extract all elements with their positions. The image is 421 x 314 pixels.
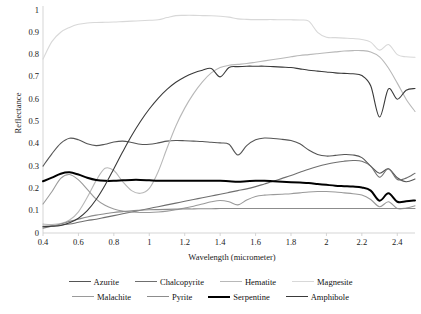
legend-swatch-icon: [220, 281, 242, 282]
legend-swatch-icon: [292, 281, 314, 282]
legend-item-label: Azurite: [94, 277, 120, 287]
legend-item-amphibole[interactable]: Amphibole: [286, 292, 349, 302]
legend-item-label: Serpentine: [233, 292, 269, 302]
reflectance-spectra-chart: Reflectance 00.10.20.30.40.50.60.70.80.9…: [0, 0, 421, 314]
series-line-magnesite: [43, 15, 415, 59]
legend-swatch-icon: [147, 296, 169, 297]
legend-swatch-icon: [72, 296, 94, 297]
x-axis-title: Wavelength (micrometer): [43, 252, 421, 262]
legend-item-magnesite[interactable]: Magnesite: [292, 277, 352, 287]
legend-item-serpentine[interactable]: Serpentine: [208, 292, 269, 302]
legend-row-1: AzuriteChalcopyriteHematiteMagnesite: [0, 274, 421, 289]
legend-item-malachite[interactable]: Malachite: [72, 292, 131, 302]
legend-item-azurite[interactable]: Azurite: [69, 277, 120, 287]
legend-item-chalcopyrite[interactable]: Chalcopyrite: [135, 277, 204, 287]
series-line-chalcopyrite: [43, 160, 415, 226]
legend-row-2: MalachitePyriteSerpentineAmphibole: [0, 289, 421, 304]
chart-legend: AzuriteChalcopyriteHematiteMagnesite Mal…: [0, 274, 421, 304]
series-line-hematite: [43, 50, 415, 224]
legend-swatch-icon: [286, 296, 308, 297]
legend-item-label: Chalcopyrite: [160, 277, 204, 287]
series-line-amphibole: [43, 66, 415, 227]
legend-swatch-icon: [208, 296, 230, 298]
legend-item-label: Hematite: [245, 277, 276, 287]
legend-item-hematite[interactable]: Hematite: [220, 277, 276, 287]
plot-area: [0, 0, 421, 314]
legend-swatch-icon: [69, 281, 91, 282]
legend-item-label: Amphibole: [311, 292, 349, 302]
legend-item-pyrite[interactable]: Pyrite: [147, 292, 192, 302]
legend-swatch-icon: [135, 281, 157, 282]
legend-item-label: Malachite: [97, 292, 131, 302]
legend-item-label: Pyrite: [172, 292, 192, 302]
legend-item-label: Magnesite: [317, 277, 352, 287]
